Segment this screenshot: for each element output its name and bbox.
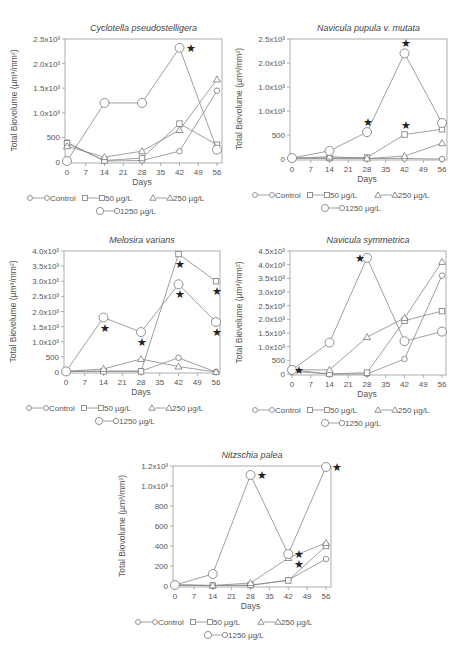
y-tick-label: 1.0x10³	[32, 338, 59, 347]
x-tick-label: 49	[303, 592, 312, 601]
y-tick-label: 1.2x10³	[141, 462, 168, 471]
x-tick-label: 7	[192, 592, 197, 601]
y-axis-label: Total Biovolume (µm³/mm²)	[8, 260, 18, 362]
y-tick-label: 4.0x10³	[32, 247, 59, 256]
legend-item-control: Control	[275, 406, 301, 415]
x-tick-label: 42	[400, 165, 409, 174]
x-tick-label: 42	[284, 592, 293, 601]
y-tick-label: 2.5x10³	[32, 292, 59, 301]
y-tick-label: 1.0x10³	[33, 109, 60, 118]
x-tick-label: 49	[419, 380, 428, 389]
chart-0: Cyclotella pseudostelligera05001.0x10³1.…	[9, 23, 222, 216]
x-tick-label: 0	[64, 378, 69, 387]
legend-item-c250: 250 µg/L	[173, 194, 205, 203]
legend: Control50 µg/L250 µg/L1250 µg/L	[253, 191, 430, 213]
y-tick-label: 1.5x10³	[33, 84, 60, 93]
legend-item-c1250: 1250 µg/L	[345, 204, 381, 213]
series-square	[64, 121, 220, 163]
y-tick-label: 1.0x10³	[258, 107, 285, 116]
y-tick-label: 0	[56, 158, 61, 167]
x-tick-label: 0	[290, 380, 295, 389]
x-tick-label: 28	[138, 168, 147, 177]
legend-item-control: Control	[158, 618, 184, 627]
x-tick-label: 28	[363, 380, 372, 389]
legend-item-c250: 250 µg/L	[398, 191, 430, 200]
x-tick-label: 56	[438, 165, 447, 174]
x-tick-label: 49	[419, 165, 428, 174]
y-tick-label: 2.0x10³	[33, 60, 60, 69]
legend-item-c50: 50 µg/L	[105, 194, 132, 203]
significance-star-icon: ★	[294, 558, 304, 570]
x-tick-label: 0	[65, 168, 70, 177]
x-tick-label: 14	[325, 165, 334, 174]
x-tick-label: 28	[363, 165, 372, 174]
legend-item-control: Control	[49, 404, 75, 413]
x-tick-label: 14	[99, 378, 108, 387]
y-tick-label: 4.0x10³	[258, 261, 285, 270]
y-tick-label: 1.0x10³	[141, 482, 168, 491]
y-tick-label: 3.5x10³	[258, 274, 285, 283]
y-tick-label: 2.5x10³	[33, 35, 60, 44]
legend-item-c50: 50 µg/L	[213, 618, 240, 627]
x-tick-label: 0	[173, 592, 178, 601]
series-circle	[289, 273, 445, 377]
chart-2: Melosira varians05001.0x10³1.5x10³2.0x10…	[8, 235, 222, 426]
x-tick-label: 21	[344, 165, 353, 174]
x-tick-label: 49	[193, 378, 202, 387]
chart-title: Navicula symmetrica	[326, 235, 409, 245]
figure-canvas: Cyclotella pseudostelligera05001.0x10³1.…	[0, 0, 466, 651]
x-tick-label: 56	[322, 592, 331, 601]
y-tick-label: 1.0x10³	[258, 343, 285, 352]
x-tick-label: 42	[175, 168, 184, 177]
x-axis-label: Days	[357, 174, 376, 184]
chart-title: Melosira varians	[109, 235, 175, 245]
x-axis-label: Days	[131, 387, 150, 397]
x-tick-label: 0	[290, 165, 295, 174]
x-tick-label: 35	[155, 378, 164, 387]
legend-item-control: Control	[275, 191, 301, 200]
chart-1: Navicula pupula v. mutata05001.0x10³1.0x…	[234, 23, 447, 213]
y-tick-label: 1.0x10³	[258, 83, 285, 92]
x-tick-label: 21	[227, 592, 236, 601]
y-tick-label: 2.5x10³	[258, 35, 285, 44]
significance-star-icon: ★	[332, 461, 342, 473]
significance-star-icon: ★	[355, 252, 365, 264]
x-tick-label: 28	[246, 592, 255, 601]
x-tick-label: 42	[400, 380, 409, 389]
x-tick-label: 7	[84, 168, 89, 177]
x-tick-label: 21	[118, 378, 127, 387]
significance-star-icon: ★	[175, 258, 185, 270]
significance-star-icon: ★	[401, 119, 411, 131]
x-axis-label: Days	[357, 389, 376, 399]
legend-item-c250: 250 µg/L	[398, 406, 430, 415]
significance-star-icon: ★	[186, 42, 196, 54]
significance-star-icon: ★	[257, 469, 267, 481]
x-tick-label: 21	[344, 380, 353, 389]
y-tick-label: 0	[281, 370, 286, 379]
significance-star-icon: ★	[401, 37, 411, 49]
series-diamond	[288, 49, 447, 163]
y-tick-label: 500	[272, 356, 286, 365]
y-tick-label: 500	[46, 353, 60, 362]
legend: Control50 µg/L250 µg/L1250 µg/L	[28, 194, 205, 216]
x-tick-label: 7	[83, 378, 88, 387]
series-square	[289, 308, 445, 376]
chart-3: Navicula symmetrica05001.0x10³1.5x10³2.0…	[234, 235, 447, 428]
x-tick-label: 56	[212, 378, 221, 387]
plot-frame	[64, 251, 220, 373]
y-tick-label: 3.0x10³	[32, 277, 59, 286]
x-tick-label: 35	[265, 592, 274, 601]
y-tick-label: 400	[155, 542, 169, 551]
x-axis-label: Days	[132, 177, 151, 187]
plot-frame	[290, 39, 447, 160]
plot-frame	[173, 466, 331, 587]
y-tick-label: 2.0x10³	[258, 59, 285, 68]
series-triangle	[64, 76, 221, 160]
y-axis-label: Total Biovolume (µm³/mm²)	[234, 48, 244, 150]
x-tick-label: 21	[119, 168, 128, 177]
y-tick-label: 800	[155, 502, 169, 511]
legend-item-c250: 250 µg/L	[172, 404, 204, 413]
series-diamond	[171, 463, 331, 590]
legend: Control50 µg/L250 µg/L1250 µg/L	[27, 404, 204, 426]
significance-star-icon: ★	[137, 336, 147, 348]
